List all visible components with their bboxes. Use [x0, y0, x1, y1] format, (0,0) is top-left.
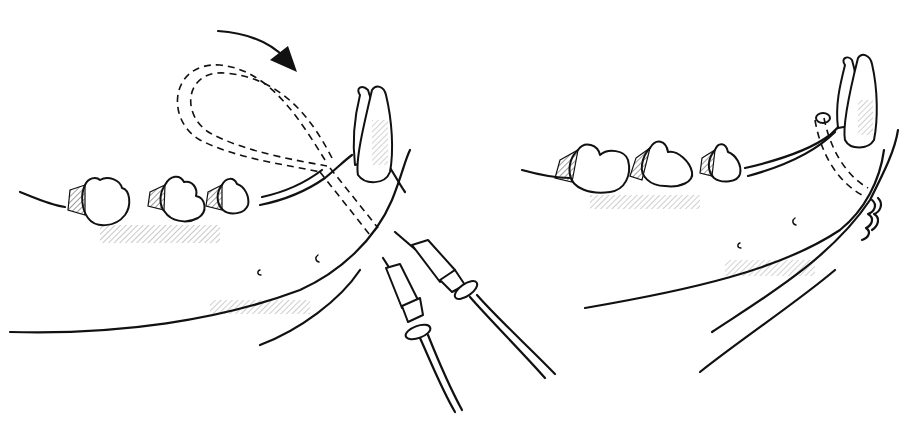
dashed-wire-loop: [177, 65, 378, 235]
mental-foramen-icon: [258, 270, 261, 275]
mental-foramen-icon: [738, 243, 741, 248]
canine-tooth: [837, 55, 877, 148]
mandible-outline: [20, 192, 65, 207]
right-panel: [522, 55, 898, 372]
premolar-teeth: [68, 177, 248, 243]
mental-foramen-icon: [316, 255, 319, 262]
mental-foramen-icon: [793, 218, 796, 225]
canine-tooth: [354, 87, 392, 183]
gum-line: [745, 115, 850, 168]
mandible-cerclage-illustration: [0, 0, 906, 421]
premolar-teeth: [555, 142, 740, 209]
left-panel: [10, 31, 555, 412]
